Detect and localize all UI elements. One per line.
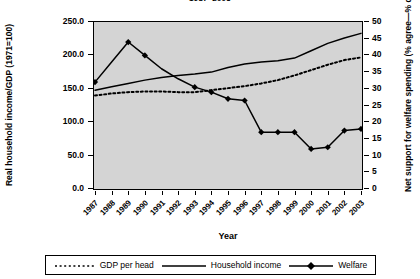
x-tick-mark [261, 191, 262, 195]
plot-area [93, 21, 363, 190]
x-tick-mark [195, 191, 196, 195]
legend-item-household-income: Household income [161, 260, 281, 270]
right-tick-label: 50 [372, 17, 394, 26]
series-line-gdp-per-head [95, 57, 361, 95]
x-tick-mark [295, 191, 296, 195]
series-line-welfare [95, 42, 361, 149]
right-tick-label: 45 [372, 34, 394, 43]
left-tick-mark [88, 21, 93, 22]
left-tick-mark [88, 54, 93, 55]
left-tick-mark [88, 121, 93, 122]
right-tick-label: 0 [372, 184, 394, 193]
x-axis-title: Year [93, 231, 363, 241]
right-tick-mark [364, 54, 369, 55]
x-tick-mark [162, 191, 163, 195]
legend-swatch-dotted-icon [54, 261, 96, 270]
x-tick-mark [128, 191, 129, 195]
left-tick-label: 0.0 [48, 184, 84, 193]
right-tick-label: 15 [372, 134, 394, 143]
right-tick-mark [364, 155, 369, 156]
x-tick-mark [178, 191, 179, 195]
series-line-household-income [95, 33, 361, 90]
left-tick-label: 50.0 [48, 151, 84, 160]
chart-legend: GDP per head Household income Welfare [45, 255, 376, 275]
left-axis-title: Real household income/GDP (1971=100) [4, 190, 174, 200]
left-tick-label: 150.0 [48, 84, 84, 93]
left-tick-label: 250.0 [48, 17, 84, 26]
x-tick-mark [211, 191, 212, 195]
legend-item-welfare: Welfare [288, 260, 367, 271]
right-tick-mark [364, 138, 369, 139]
left-tick-mark [88, 155, 93, 156]
chart-title: 1987–2003 [0, 0, 420, 3]
legend-item-gdp-per-head: GDP per head [54, 260, 154, 270]
right-tick-label: 20 [372, 117, 394, 126]
left-tick-mark [88, 188, 93, 189]
right-tick-mark [364, 38, 369, 39]
right-tick-mark [364, 71, 369, 72]
series-marker-welfare [242, 97, 248, 103]
legend-label: GDP per head [100, 260, 154, 270]
x-tick-mark [112, 191, 113, 195]
series-marker-welfare [192, 84, 198, 90]
right-tick-label: 10 [372, 151, 394, 160]
x-tick-mark [145, 191, 146, 195]
right-tick-mark [364, 105, 369, 106]
right-tick-mark [364, 188, 369, 189]
x-tick-mark [228, 191, 229, 195]
series-canvas [94, 22, 362, 189]
right-tick-mark [364, 21, 369, 22]
series-marker-welfare [225, 96, 231, 102]
chart-figure: 1987–2003 Real household income/GDP (197… [0, 0, 420, 279]
right-tick-label: 25 [372, 101, 394, 110]
series-marker-welfare [358, 126, 362, 132]
right-tick-label: 5 [372, 167, 394, 176]
series-marker-welfare [275, 129, 281, 135]
left-tick-label: 100.0 [48, 117, 84, 126]
x-tick-mark [245, 191, 246, 195]
x-tick-mark [95, 191, 96, 195]
x-tick-mark [361, 191, 362, 195]
x-tick-mark [344, 191, 345, 195]
right-tick-mark [364, 88, 369, 89]
left-tick-label: 200.0 [48, 50, 84, 59]
right-tick-mark [364, 171, 369, 172]
x-tick-mark [278, 191, 279, 195]
legend-swatch-solid-icon [161, 261, 207, 270]
x-tick-mark [328, 191, 329, 195]
series-marker-welfare [258, 129, 264, 135]
right-tick-label: 35 [372, 67, 394, 76]
right-tick-mark [364, 121, 369, 122]
left-tick-mark [88, 88, 93, 89]
legend-label: Welfare [338, 260, 367, 270]
right-axis-title: Net support for welfare spending (% agre… [403, 192, 420, 202]
right-tick-label: 30 [372, 84, 394, 93]
x-tick-mark [311, 191, 312, 195]
right-tick-label: 40 [372, 50, 394, 59]
legend-swatch-diamond-line-icon [288, 260, 334, 271]
legend-label: Household income [211, 260, 281, 270]
